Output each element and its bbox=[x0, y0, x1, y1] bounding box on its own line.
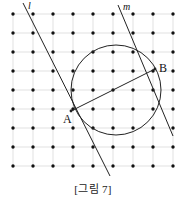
grid-dot bbox=[51, 107, 54, 110]
grid-dot bbox=[151, 31, 154, 34]
grid-dot bbox=[91, 164, 94, 167]
line-label-l: l bbox=[28, 1, 31, 11]
grid-dot bbox=[51, 12, 54, 15]
grid-dot bbox=[31, 88, 34, 91]
grid-dot bbox=[171, 126, 174, 129]
grid-dot bbox=[111, 145, 114, 148]
grid-dot bbox=[71, 50, 74, 53]
grid-dot bbox=[11, 126, 14, 129]
grid-dot bbox=[131, 88, 134, 91]
grid-dot bbox=[151, 164, 154, 167]
point-label-b: B bbox=[159, 62, 167, 74]
grid-dot bbox=[171, 50, 174, 53]
grid-dot bbox=[131, 50, 134, 53]
grid-dot bbox=[91, 107, 94, 110]
grid-dot bbox=[71, 164, 74, 167]
grid-dot bbox=[151, 12, 154, 15]
grid-dot bbox=[51, 31, 54, 34]
tangent-lines bbox=[23, 3, 173, 176]
grid-dot bbox=[151, 126, 154, 129]
grid-dot bbox=[111, 50, 114, 53]
grid-dot bbox=[111, 69, 114, 72]
grid-dot bbox=[151, 50, 154, 53]
grid-dot bbox=[51, 88, 54, 91]
grid-dot bbox=[91, 31, 94, 34]
grid-dot bbox=[71, 126, 74, 129]
grid-dot bbox=[71, 88, 74, 91]
geometry-diagram bbox=[0, 0, 186, 200]
grid-dot bbox=[71, 12, 74, 15]
grid-dot bbox=[131, 126, 134, 129]
grid-dot bbox=[31, 31, 34, 34]
grid-dot bbox=[11, 145, 14, 148]
grid-dot bbox=[31, 145, 34, 148]
figure-line-l bbox=[23, 3, 110, 176]
grid-dot bbox=[91, 145, 94, 148]
grid-dot bbox=[171, 12, 174, 15]
grid-dot bbox=[131, 145, 134, 148]
grid-dot bbox=[31, 50, 34, 53]
grid-dot bbox=[131, 12, 134, 15]
grid-dot bbox=[51, 145, 54, 148]
grid-dot bbox=[31, 12, 34, 15]
grid-dot bbox=[111, 31, 114, 34]
line-label-m: m bbox=[123, 2, 130, 12]
grid-dot bbox=[131, 31, 134, 34]
grid-dot bbox=[31, 107, 34, 110]
grid-dot bbox=[71, 145, 74, 148]
grid-dot bbox=[11, 69, 14, 72]
grid-dot bbox=[31, 69, 34, 72]
grid-dot bbox=[91, 12, 94, 15]
grid-dot bbox=[51, 69, 54, 72]
grid-dot bbox=[11, 88, 14, 91]
figure-caption: [그림 7] bbox=[0, 180, 186, 196]
grid-dot bbox=[11, 164, 14, 167]
grid-dot bbox=[131, 164, 134, 167]
grid-dot bbox=[171, 107, 174, 110]
grid-dot bbox=[11, 12, 14, 15]
grid-dot bbox=[111, 164, 114, 167]
grid-dot bbox=[31, 126, 34, 129]
grid-dot bbox=[171, 88, 174, 91]
grid-dot bbox=[11, 31, 14, 34]
grid-dot bbox=[11, 50, 14, 53]
grid-dot bbox=[71, 31, 74, 34]
grid-dot bbox=[31, 164, 34, 167]
grid-dot bbox=[171, 145, 174, 148]
grid-dot bbox=[51, 126, 54, 129]
point-label-a: A bbox=[63, 113, 72, 125]
grid-dot bbox=[151, 107, 154, 110]
grid-dot bbox=[131, 107, 134, 110]
grid-dot bbox=[171, 31, 174, 34]
grid-dot bbox=[51, 50, 54, 53]
grid-dot bbox=[171, 69, 174, 72]
grid-dot bbox=[51, 164, 54, 167]
grid-dot bbox=[111, 107, 114, 110]
figure-container: l m A B [그림 7] bbox=[0, 0, 186, 200]
grid-dot bbox=[91, 69, 94, 72]
grid-dot bbox=[111, 126, 114, 129]
grid-dot bbox=[151, 145, 154, 148]
grid-dot bbox=[131, 69, 134, 72]
grid-dot bbox=[171, 164, 174, 167]
grid-dot bbox=[11, 107, 14, 110]
grid-dot bbox=[91, 88, 94, 91]
grid-dot bbox=[111, 12, 114, 15]
point-marker-b bbox=[154, 68, 157, 71]
